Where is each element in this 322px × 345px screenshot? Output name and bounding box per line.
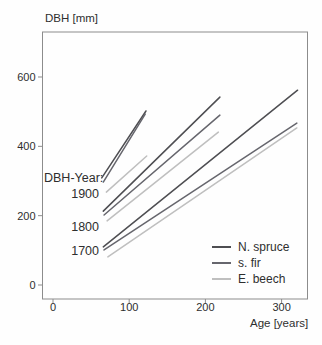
e-beech-line-swatch-icon	[212, 278, 231, 280]
legend: N. spruce s. fir E. beech	[212, 239, 289, 287]
legend-label: s. fir	[238, 257, 261, 269]
growth-line-1900-n_spruce	[102, 111, 146, 178]
growth-line-1900-s_fir	[103, 114, 145, 182]
year-label-1700: 1700	[71, 245, 99, 258]
figure-dbh-age-chart: 01002003000200400600 DBH [mm] Age [years…	[0, 0, 322, 345]
x-tick-label: 0	[50, 301, 56, 313]
x-axis-title: Age [years]	[250, 317, 308, 329]
x-tick-label: 100	[120, 301, 138, 313]
year-label-1900: 1900	[71, 188, 99, 201]
y-tick-label: 200	[17, 210, 35, 222]
x-tick-label: 300	[272, 301, 290, 313]
s-fir-line-swatch-icon	[212, 262, 231, 264]
legend-item-e-beech: E. beech	[212, 271, 289, 287]
x-tick-label: 200	[196, 301, 214, 313]
growth-line-1700-e_beech	[108, 128, 297, 257]
n-spruce-line-swatch-icon	[212, 246, 231, 248]
y-axis-title: DBH [mm]	[45, 12, 98, 24]
y-tick-label: 0	[29, 279, 35, 291]
legend-item-s-fir: s. fir	[212, 255, 289, 271]
dbh-year-annotation-header: DBH-Year:	[44, 171, 103, 185]
growth-line-1700-s_fir	[104, 123, 297, 250]
legend-item-n-spruce: N. spruce	[212, 239, 289, 255]
legend-label: E. beech	[238, 273, 285, 285]
y-tick-label: 600	[17, 71, 35, 83]
year-label-1800: 1800	[71, 221, 99, 234]
y-tick-label: 400	[17, 140, 35, 152]
legend-label: N. spruce	[238, 241, 289, 253]
